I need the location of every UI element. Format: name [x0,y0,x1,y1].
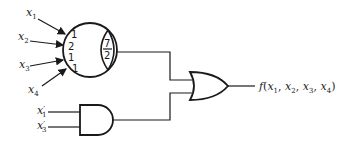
threshold-input-labels: x1 x2 x3 x4 [18,6,39,98]
input-label-x1: x1 [26,6,37,21]
weight-x4: 1 [72,63,78,74]
and-input-label-x3prime: x′3 [37,119,47,134]
arrow-x3 [30,60,63,66]
threshold-input-arrows [30,19,66,86]
logic-diagram: x1 x2 x3 x4 1 2 1 1 7 2 x′1 x′3 f(x1, x2… [0,0,344,142]
threshold-gate: 1 2 1 1 7 2 [63,23,117,77]
wire-and-to-or [113,93,192,120]
weight-x2: 2 [68,41,74,52]
output-label: f(x1, x2, x3, x4) [258,80,335,95]
arrow-x2 [30,41,63,45]
weight-x1: 1 [71,29,77,40]
and-input-label-x1prime: x′1 [37,104,47,119]
arrow-x1 [38,19,65,34]
or-gate [190,72,228,100]
input-label-x4: x4 [28,83,39,98]
input-label-x3: x3 [19,58,30,73]
arrow-x4 [42,69,66,86]
and-gate-inputs: x′1 x′3 [37,104,80,134]
and-gate [80,105,113,135]
threshold-denominator: 2 [104,50,110,61]
input-label-x2: x2 [18,30,29,45]
weight-x3: 1 [68,52,74,63]
threshold-numerator: 7 [104,38,110,49]
wire-threshold-to-or [117,52,192,80]
